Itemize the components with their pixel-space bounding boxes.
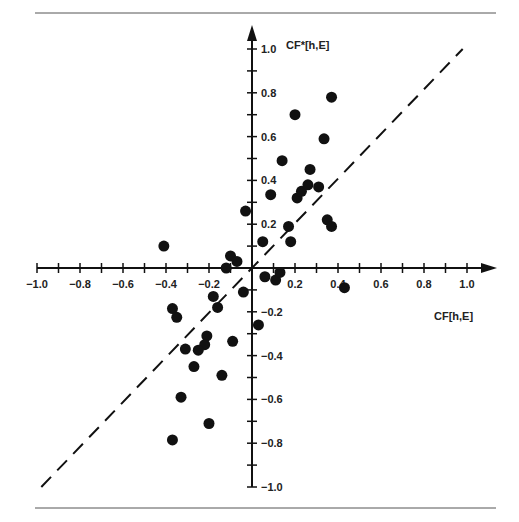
y-tick-label: −1.0	[261, 481, 283, 493]
data-point	[285, 236, 296, 247]
data-point	[290, 109, 301, 120]
data-point	[216, 370, 227, 381]
y-tick-label: 0.8	[261, 87, 276, 99]
data-point	[257, 236, 268, 247]
data-point	[274, 267, 285, 278]
x-tick-label: −1.0	[26, 278, 48, 290]
data-point	[158, 241, 169, 252]
data-point	[259, 271, 270, 282]
data-point	[265, 189, 276, 200]
y-tick-label: 0.2	[261, 218, 276, 230]
data-point	[253, 319, 264, 330]
y-axis-arrow-icon	[247, 25, 257, 41]
scatter-chart: −1.0−0.8−0.6−0.4−0.20.20.40.60.81.0 1.00…	[0, 0, 519, 522]
x-tick-labels: −1.0−0.8−0.6−0.4−0.20.20.40.60.81.0	[26, 278, 475, 290]
y-tick-label: −0.6	[261, 393, 283, 405]
data-point	[167, 434, 178, 445]
data-point	[208, 291, 219, 302]
data-point	[277, 155, 288, 166]
y-tick-label: −0.4	[261, 350, 284, 362]
data-point	[212, 302, 223, 313]
x-tick-label: −0.8	[69, 278, 91, 290]
x-tick-label: 1.0	[459, 278, 474, 290]
data-point	[240, 206, 251, 217]
y-tick-label: 1.0	[261, 43, 276, 55]
x-axis-title: CF[h,E]	[434, 310, 473, 322]
x-tick-label: 0.2	[287, 278, 302, 290]
data-point	[193, 345, 204, 356]
x-tick-label: 0.6	[373, 278, 388, 290]
data-point	[238, 287, 249, 298]
data-point	[339, 282, 350, 293]
y-tick-label: −0.8	[261, 437, 283, 449]
x-tick-label: −0.4	[155, 278, 178, 290]
data-point	[326, 221, 337, 232]
y-axis	[247, 25, 257, 487]
y-axis-title: CF*[h,E]	[286, 39, 330, 51]
data-point	[171, 312, 182, 323]
data-point	[313, 181, 324, 192]
y-tick-label: 0.4	[261, 174, 277, 186]
data-point	[326, 92, 337, 103]
data-point	[302, 179, 313, 190]
data-point	[227, 336, 238, 347]
data-point	[231, 256, 242, 267]
x-tick-label: −0.6	[112, 278, 134, 290]
data-point	[188, 361, 199, 372]
data-point	[180, 344, 191, 355]
y-tick-label: 0.6	[261, 131, 276, 143]
y-tick-label: −0.2	[261, 306, 283, 318]
data-point	[221, 263, 232, 274]
data-point	[283, 221, 294, 232]
data-point	[204, 418, 215, 429]
data-point	[176, 392, 187, 403]
x-tick-label: −0.2	[198, 278, 220, 290]
data-point	[319, 133, 330, 144]
x-axis-arrow-icon	[481, 263, 497, 273]
x-tick-label: 0.8	[416, 278, 431, 290]
x-axis	[37, 263, 497, 273]
data-point	[305, 164, 316, 175]
